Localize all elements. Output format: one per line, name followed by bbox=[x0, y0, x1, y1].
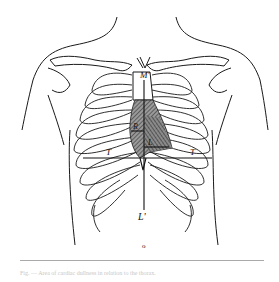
label-R: R bbox=[132, 122, 138, 131]
clavicle-right bbox=[147, 56, 229, 71]
label-L: L bbox=[147, 138, 153, 147]
caption-rule bbox=[20, 260, 264, 261]
clavicle-left bbox=[50, 56, 132, 71]
marker-o: o bbox=[142, 242, 146, 250]
body-outline-right bbox=[176, 17, 268, 130]
label-L-prime: L' bbox=[137, 211, 147, 222]
ribs-right bbox=[148, 73, 210, 232]
label-M-prime: M' bbox=[139, 70, 150, 80]
thorax-diagram: M' L' T T R L o bbox=[0, 0, 279, 282]
figure-caption: Fig. — Area of cardiac dullness in relat… bbox=[20, 270, 264, 278]
